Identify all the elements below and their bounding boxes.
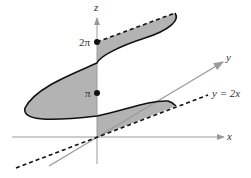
- figure: z y x 2π π y = 2x: [0, 0, 251, 178]
- tick-pi-label: π: [85, 88, 91, 99]
- point-2pi: [94, 39, 100, 45]
- x-axis-label: x: [227, 131, 232, 142]
- z-axis-label: z: [94, 2, 98, 13]
- line-label: y = 2x: [212, 88, 240, 99]
- tick-2pi-label: 2π: [79, 37, 90, 48]
- point-pi: [94, 90, 100, 96]
- y-axis-label: y: [226, 52, 231, 63]
- shaded-surface-upper: [97, 13, 176, 63]
